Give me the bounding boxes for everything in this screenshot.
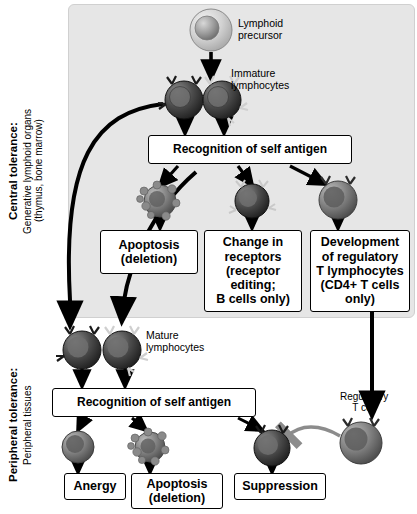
box-anergy: Anergy — [64, 473, 126, 500]
cell-apoptotic-peripheral — [128, 428, 169, 465]
label-mature-lymphocytes: Mature lymphocytes — [146, 330, 204, 354]
inhibition-arc-treg-to-target — [288, 427, 340, 436]
label-regulatory-t-cell: Regulatory T cell — [340, 391, 388, 413]
cell-mature-lymphocyte-right — [103, 326, 148, 376]
label-lymphoid-precursor: Lymphoid precursor — [238, 18, 283, 42]
box-suppression: Suppression — [234, 473, 326, 500]
cell-immature-lymphocyte-left — [158, 76, 203, 119]
cell-anergic — [62, 431, 94, 463]
cell-lymphoid-precursor — [190, 9, 232, 51]
arrow-recognition-to-apoptosis — [160, 166, 178, 186]
label-immature-lymphocytes: Immature lymphocytes — [231, 68, 289, 92]
box-recognition-self-antigen-central: Recognition of self antigen — [148, 135, 352, 164]
cell-regulatory-t — [340, 418, 382, 464]
cell-mature-lymphocyte-left — [56, 326, 101, 369]
cell-receptor-editing — [229, 180, 276, 218]
box-recognition-self-antigen-peripheral: Recognition of self antigen — [52, 388, 256, 417]
box-development-regulatory-t-lymphocytes: Development of regulatory T lymphocytes … — [310, 230, 410, 312]
cell-apoptotic-central — [137, 181, 180, 220]
arrow-recognition-to-anergy — [78, 418, 84, 430]
figure-root: Central tolerance: Generative lymphoid o… — [0, 0, 417, 514]
cell-suppressed-target — [254, 425, 290, 466]
arrow-recognition-to-apoptosis-peripheral — [132, 418, 146, 430]
arrow-recognition-to-receptor-change — [238, 166, 252, 185]
box-apoptosis-deletion-peripheral: Apoptosis (deletion) — [131, 473, 223, 509]
cell-treg-developing — [319, 176, 357, 219]
box-change-in-receptors: Change in receptors (receptor editing; B… — [204, 230, 302, 312]
arrow-recognition-to-treg — [290, 166, 325, 184]
box-apoptosis-deletion-central: Apoptosis (deletion) — [100, 230, 198, 274]
